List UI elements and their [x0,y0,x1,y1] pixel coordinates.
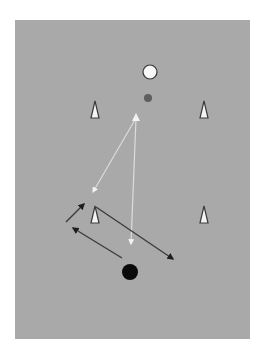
top-pass-arrowhead-icon [132,113,140,121]
pass-vertical [131,118,136,244]
black-player-icon [122,264,138,280]
cone-top-right-icon [200,101,208,118]
run-short [66,204,84,222]
drill-diagram [0,0,263,357]
run-back [73,228,122,258]
pass-diagonal [93,118,136,192]
pass-lines [93,118,136,244]
run-lines [66,204,173,259]
grey-marker-icon [144,94,152,102]
white-ball-icon [143,65,157,79]
cone-top-left-icon [91,101,99,118]
run-long [96,207,173,259]
cone-bottom-right-icon [200,206,208,223]
cones [91,101,208,223]
markers [122,65,157,280]
